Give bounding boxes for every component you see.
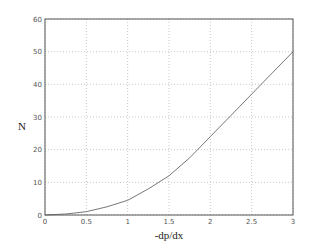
x-axis-label: -dp/dx: [155, 229, 184, 241]
y-tick-label: 30: [33, 114, 42, 122]
y-tick-label: 10: [33, 179, 42, 187]
x-tick-label: 1.5: [163, 218, 174, 226]
y-axis-label: N: [18, 120, 26, 132]
y-tick-label: 0: [38, 212, 42, 220]
x-tick-label: 3: [291, 218, 295, 226]
grid-lines: [45, 19, 293, 215]
x-tick-label: 0.5: [81, 218, 92, 226]
x-tick-label: 2.5: [246, 218, 257, 226]
y-tick-label: 40: [33, 81, 42, 89]
y-axis-ticks: 0102030405060: [33, 16, 42, 220]
y-tick-label: 60: [33, 16, 42, 24]
x-tick-label: 0: [43, 218, 47, 226]
x-tick-label: 1: [125, 218, 129, 226]
line-chart: 00.511.522.53 0102030405060 -dp/dx N: [0, 0, 311, 252]
y-tick-label: 50: [33, 48, 42, 56]
y-tick-label: 20: [33, 146, 42, 154]
x-axis-ticks: 00.511.522.53: [43, 218, 295, 226]
x-tick-label: 2: [208, 218, 212, 226]
